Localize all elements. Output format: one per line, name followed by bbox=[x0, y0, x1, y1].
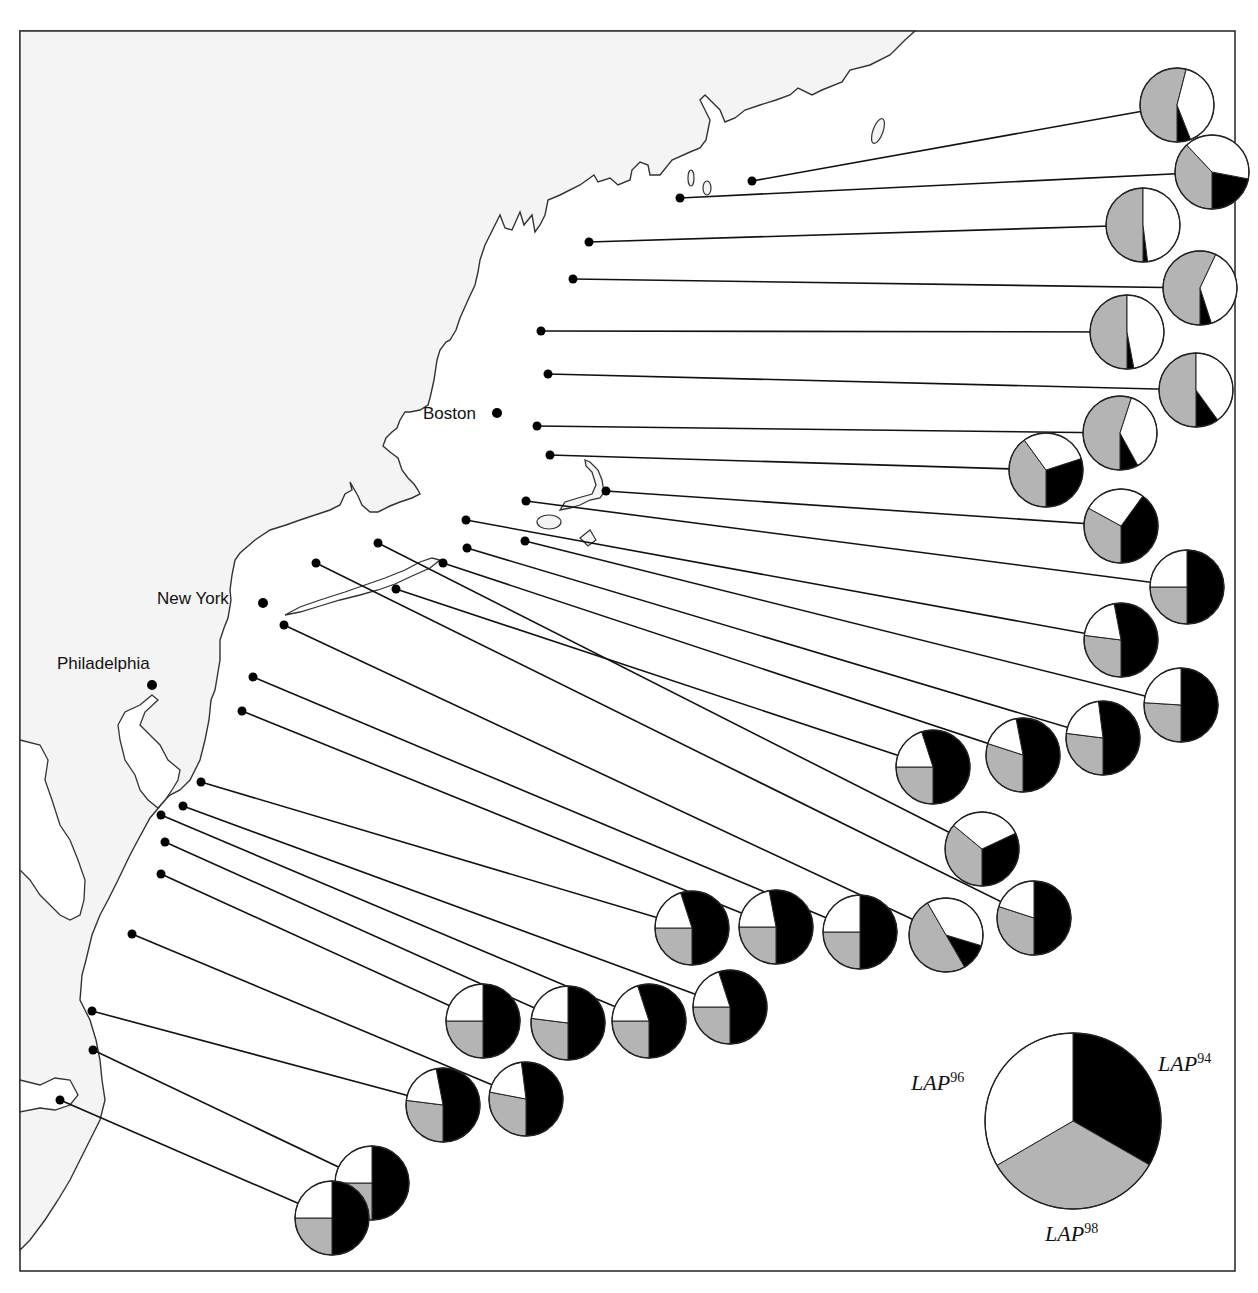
site-pie bbox=[1084, 489, 1158, 563]
site-pie bbox=[1140, 68, 1214, 142]
site-dot bbox=[238, 707, 247, 716]
site-pie bbox=[655, 891, 729, 965]
site-pie bbox=[1084, 603, 1158, 677]
site-pie bbox=[1144, 668, 1218, 742]
site-pie bbox=[1066, 701, 1140, 775]
site-pie bbox=[997, 881, 1071, 955]
site-dot bbox=[439, 559, 448, 568]
site-dot bbox=[312, 559, 321, 568]
site-pie bbox=[1175, 135, 1249, 209]
city-dot bbox=[258, 598, 268, 608]
site-dot bbox=[197, 778, 206, 787]
site-dot bbox=[56, 1096, 65, 1105]
site-dot bbox=[676, 194, 685, 203]
site-dot bbox=[585, 238, 594, 247]
site-pie bbox=[612, 984, 686, 1058]
site-dot bbox=[537, 327, 546, 336]
site-dot bbox=[161, 838, 170, 847]
site-dot bbox=[544, 370, 553, 379]
legend-pie bbox=[985, 1033, 1161, 1209]
site-dot bbox=[533, 422, 542, 431]
site-pie bbox=[909, 898, 983, 972]
site-pie bbox=[1159, 353, 1233, 427]
city-dot bbox=[147, 680, 157, 690]
site-pie bbox=[1163, 251, 1237, 325]
city-label-philadelphia: Philadelphia bbox=[57, 654, 150, 673]
site-pie bbox=[896, 730, 970, 804]
site-dot bbox=[748, 177, 757, 186]
site-dot bbox=[128, 930, 137, 939]
site-pie bbox=[986, 718, 1060, 792]
site-dot bbox=[569, 275, 578, 284]
site-dot bbox=[521, 537, 530, 546]
site-pie bbox=[446, 984, 520, 1058]
site-pie bbox=[489, 1062, 563, 1136]
site-pie bbox=[1106, 188, 1180, 262]
site-pie bbox=[693, 970, 767, 1044]
site-pie bbox=[1090, 295, 1164, 369]
site-dot bbox=[602, 487, 611, 496]
site-dot bbox=[157, 811, 166, 820]
site-pie bbox=[945, 812, 1019, 886]
site-pie bbox=[1083, 396, 1157, 470]
site-dot bbox=[179, 802, 188, 811]
site-dot bbox=[374, 539, 383, 548]
site-pie bbox=[406, 1068, 480, 1142]
site-dot bbox=[522, 497, 531, 506]
site-dot bbox=[89, 1046, 98, 1055]
site-dot bbox=[462, 516, 471, 525]
site-dot bbox=[157, 870, 166, 879]
site-pie bbox=[823, 895, 897, 969]
city-label-boston: Boston bbox=[423, 404, 476, 423]
city-dot bbox=[492, 408, 502, 418]
site-dot bbox=[463, 544, 472, 553]
site-pie bbox=[1150, 550, 1224, 624]
site-pie bbox=[1009, 433, 1083, 507]
site-pie bbox=[739, 890, 813, 964]
city-label-new-york: New York bbox=[157, 589, 229, 608]
site-dot bbox=[249, 673, 258, 682]
site-dot bbox=[546, 451, 555, 460]
site-pie bbox=[531, 986, 605, 1060]
leader-line bbox=[541, 331, 1127, 332]
site-dot bbox=[280, 621, 289, 630]
site-dot bbox=[392, 585, 401, 594]
site-pie bbox=[295, 1181, 369, 1255]
coastal-map: Boston New York Philadelphia LAP94 LAP96… bbox=[0, 0, 1258, 1293]
site-dot bbox=[88, 1007, 97, 1016]
